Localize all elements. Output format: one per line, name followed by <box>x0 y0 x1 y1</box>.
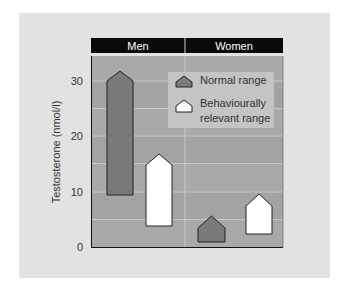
chart: Men Women 0 10 20 30 Testosterone (nmol/… <box>0 0 345 293</box>
y-tick-20: 20 <box>71 130 83 142</box>
header-women: Women <box>215 40 253 52</box>
legend-normal-label: Normal range <box>200 74 267 86</box>
bar-men-behavioural-range <box>146 154 172 226</box>
y-tick-0: 0 <box>77 241 83 253</box>
bar-men-normal-range <box>107 71 133 195</box>
category-header-bar <box>91 38 283 53</box>
legend: Normal range Behaviourally relevant rang… <box>168 72 274 128</box>
y-tick-10: 10 <box>71 186 83 198</box>
y-axis-label: Testosterone (nmol/l) <box>50 101 62 204</box>
legend-behavioural-label-line2: relevant range <box>200 112 270 124</box>
header-men: Men <box>127 40 148 52</box>
y-tick-30: 30 <box>71 75 83 87</box>
legend-behavioural-label-line1: Behaviourally <box>200 97 267 109</box>
